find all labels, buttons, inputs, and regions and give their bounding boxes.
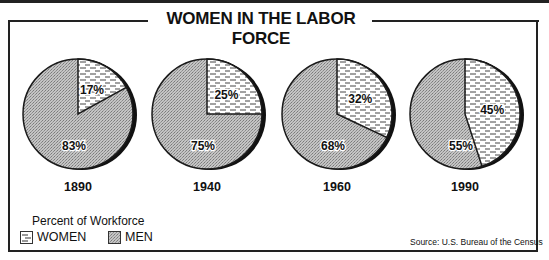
pie-1960: 32%68% xyxy=(282,59,396,170)
source-note: Source: U.S. Bureau of the Census xyxy=(410,237,543,247)
legend-label-women: WOMEN xyxy=(37,230,86,244)
women-pct-label: 32% xyxy=(348,92,372,106)
men-swatch-icon xyxy=(108,231,121,244)
women-pct-label: 17% xyxy=(80,83,104,97)
year-label-1940: 1940 xyxy=(167,180,247,194)
year-label-1990: 1990 xyxy=(425,180,505,194)
legend-item-men: MEN xyxy=(108,230,153,244)
women-pct-label: 25% xyxy=(214,88,238,102)
men-pct-label: 83% xyxy=(62,139,86,153)
women-pct-label: 45% xyxy=(480,103,504,117)
year-label-1890: 1890 xyxy=(38,180,118,194)
men-pct-label: 55% xyxy=(449,139,473,153)
men-pct-label: 68% xyxy=(321,139,345,153)
year-label-1960: 1960 xyxy=(297,180,377,194)
pie-1940: 25%75% xyxy=(152,59,266,170)
pie-1890: 17%83% xyxy=(23,59,137,170)
men-pct-label: 75% xyxy=(191,139,215,153)
women-slice xyxy=(207,59,262,114)
women-swatch-icon xyxy=(20,231,33,244)
pie-1990: 45%55% xyxy=(410,59,524,170)
legend-title: Percent of Workforce xyxy=(32,214,145,228)
legend-label-men: MEN xyxy=(125,230,153,244)
legend-item-women: WOMEN xyxy=(20,230,86,244)
